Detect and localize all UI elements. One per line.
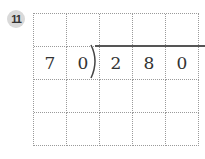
grid-cell[interactable] [166,80,199,113]
grid-cell[interactable] [67,113,100,146]
grid-cell[interactable] [34,14,67,47]
division-bracket-icon [89,44,99,79]
dividend-digit: 2 [100,47,133,80]
grid-cell[interactable] [100,14,133,47]
grid-cell[interactable] [67,14,100,47]
long-division-grid: 7 0 2 8 0 [33,13,199,146]
dividend-digit: 8 [133,47,166,80]
grid-cell[interactable] [133,14,166,47]
grid-cell[interactable] [34,80,67,113]
grid-cell[interactable] [100,113,133,146]
grid-cell[interactable] [133,80,166,113]
grid-cell[interactable] [67,80,100,113]
grid-cell[interactable] [100,80,133,113]
grid-cell[interactable] [166,113,199,146]
grid-cell[interactable] [34,113,67,146]
grid-cell[interactable] [133,113,166,146]
problem-number-badge: 11 [7,10,25,28]
dividend-digit: 0 [166,47,199,80]
division-vinculum-line [95,45,205,47]
divisor-digit: 7 [34,47,67,80]
grid-cell[interactable] [166,14,199,47]
